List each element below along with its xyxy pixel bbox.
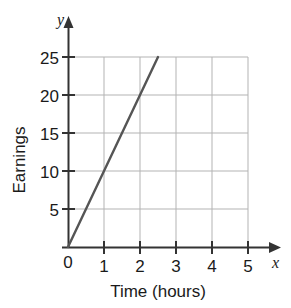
x-axis-title: Time (hours) <box>110 282 206 302</box>
x-tick-label-3: 3 <box>166 258 186 275</box>
vertical-gridlines <box>104 57 248 247</box>
series-earnings-over-time <box>68 57 158 247</box>
x-axis-symbol-label: x <box>272 254 279 272</box>
y-tick-label-15: 15 <box>25 126 59 143</box>
y-tick-label-10: 10 <box>25 164 59 181</box>
y-tick-label-25: 25 <box>25 50 59 67</box>
y-tick-label-5: 5 <box>25 202 59 219</box>
x-axis-arrowhead-icon <box>269 242 281 253</box>
y-axis-title: Earnings <box>10 126 30 193</box>
horizontal-gridlines <box>68 57 248 209</box>
x-tick-label-0: 0 <box>58 254 78 271</box>
y-axis-symbol-label: y <box>57 11 64 29</box>
data-series-line <box>68 57 158 247</box>
y-tick-label-20: 20 <box>25 88 59 105</box>
y-axis <box>64 16 74 247</box>
x-tick-label-4: 4 <box>202 258 222 275</box>
x-tick-label-5: 5 <box>238 258 258 275</box>
y-axis-arrowhead-icon <box>64 16 74 28</box>
earnings-time-line-chart: 25 20 15 10 5 0 1 2 3 4 5 y x Earnings T… <box>0 0 291 308</box>
x-tick-label-2: 2 <box>130 258 150 275</box>
x-tick-label-1: 1 <box>94 258 114 275</box>
